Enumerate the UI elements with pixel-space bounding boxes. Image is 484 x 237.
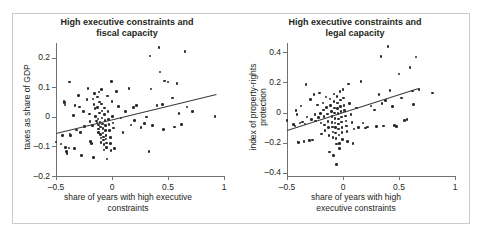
scatter-point <box>325 96 328 99</box>
scatter-point <box>306 116 309 119</box>
scatter-point <box>104 129 107 132</box>
scatter-point <box>82 110 85 113</box>
scatter-point <box>108 123 111 126</box>
y-axis-label-fiscal: taxes as share of GDP <box>22 42 32 172</box>
scatter-point <box>305 83 308 86</box>
plot-area-legal: 0.40.20–0.2–0.4–0.500.51 <box>287 43 455 176</box>
scatter-point <box>329 98 332 101</box>
y-axis-label-legal: index of property-rights protection <box>248 40 268 174</box>
scatter-point <box>98 112 101 115</box>
scatter-point <box>327 126 330 129</box>
x-axis-line <box>287 176 455 177</box>
y-tick-label: 0 <box>45 111 50 121</box>
scatter-point <box>381 102 384 105</box>
scatter-point <box>303 140 306 143</box>
scatter-point <box>105 142 108 145</box>
scatter-point <box>143 122 146 125</box>
scatter-point <box>60 143 63 146</box>
scatter-point <box>295 109 298 112</box>
scatter-point <box>330 110 333 113</box>
scatter-point <box>111 115 114 118</box>
scatter-point <box>93 103 96 106</box>
y-tick <box>52 87 56 88</box>
scatter-point <box>335 137 338 140</box>
scatter-point <box>173 126 176 129</box>
scatter-point <box>86 98 89 101</box>
scatter-point <box>92 156 95 159</box>
scatter-point <box>334 122 337 125</box>
scatter-point <box>345 125 348 128</box>
scatter-point <box>68 81 71 84</box>
x-tick-label: 0.5 <box>388 182 410 192</box>
x-axis-label-fiscal-line2: constraints <box>23 203 233 214</box>
scatter-point <box>106 158 109 161</box>
scatter-point <box>338 147 341 150</box>
scatter-point <box>334 117 337 120</box>
scatter-point <box>335 163 338 166</box>
x-axis-label-legal-line1: share of years with high <box>251 192 461 203</box>
scatter-point <box>97 118 100 121</box>
scatter-point <box>74 104 77 107</box>
y-axis-line <box>56 43 57 176</box>
scatter-point <box>105 146 108 149</box>
scatter-point <box>122 131 125 134</box>
x-axis-label-legal: share of years with high executive const… <box>251 192 461 213</box>
scatter-point <box>341 131 344 134</box>
scatter-point <box>329 104 332 107</box>
scatter-point <box>323 124 326 127</box>
scatter-point <box>308 139 311 142</box>
scatter-point <box>311 139 314 142</box>
scatter-point <box>98 91 101 94</box>
y-tick-label: –0.1 <box>33 141 50 151</box>
scatter-point <box>346 140 349 143</box>
scatter-point <box>333 100 336 103</box>
scatter-point <box>334 132 337 135</box>
scatter-point <box>103 113 106 116</box>
y-tick <box>52 146 56 147</box>
scatter-point <box>339 105 342 108</box>
scatter-point <box>382 125 385 128</box>
scatter-point <box>412 103 415 106</box>
panel-title-fiscal-line2: fiscal capacity <box>27 28 227 39</box>
scatter-point <box>115 90 118 93</box>
scatter-point <box>87 87 90 90</box>
panel-title-legal-line2: legal capacity <box>255 28 455 39</box>
scatter-point <box>167 81 170 84</box>
x-tick-label: 0 <box>101 182 123 192</box>
y-tick-label: 0 <box>276 107 281 117</box>
scatter-point <box>360 80 363 83</box>
scatter-point <box>340 121 343 124</box>
y-tick-label: 0.1 <box>38 82 50 92</box>
scatter-point <box>341 138 344 141</box>
scatter-point <box>337 128 340 131</box>
scatter-point <box>378 93 381 96</box>
scatter-point <box>145 116 148 119</box>
y-tick <box>283 173 287 174</box>
scatter-point <box>109 136 112 139</box>
scatter-point <box>110 149 113 152</box>
scatter-point <box>415 56 418 59</box>
y-tick <box>52 58 56 59</box>
scatter-point <box>184 50 187 53</box>
scatter-point <box>373 109 376 112</box>
x-tick-label: –0.5 <box>45 182 67 192</box>
scatter-point <box>108 129 111 132</box>
scatter-point <box>328 134 331 137</box>
scatter-point <box>130 124 133 127</box>
scatter-point <box>400 97 403 100</box>
x-tick <box>455 176 456 180</box>
scatter-point <box>297 141 300 144</box>
scatter-point <box>350 113 353 116</box>
panel-title-fiscal: High executive constraints and fiscal ca… <box>27 17 227 39</box>
scatter-point <box>89 120 92 123</box>
scatter-point <box>69 134 72 137</box>
panel-title-legal: High executive constraints and legal cap… <box>255 17 455 39</box>
scatter-point <box>106 95 109 98</box>
scatter-point <box>406 118 409 121</box>
scatter-point <box>100 88 103 91</box>
scatter-point <box>158 46 161 49</box>
y-tick <box>283 143 287 144</box>
scatter-point <box>112 122 115 125</box>
scatter-point <box>113 147 116 150</box>
chart-panel-fiscal-capacity: High executive constraints and fiscal ca… <box>13 14 242 223</box>
